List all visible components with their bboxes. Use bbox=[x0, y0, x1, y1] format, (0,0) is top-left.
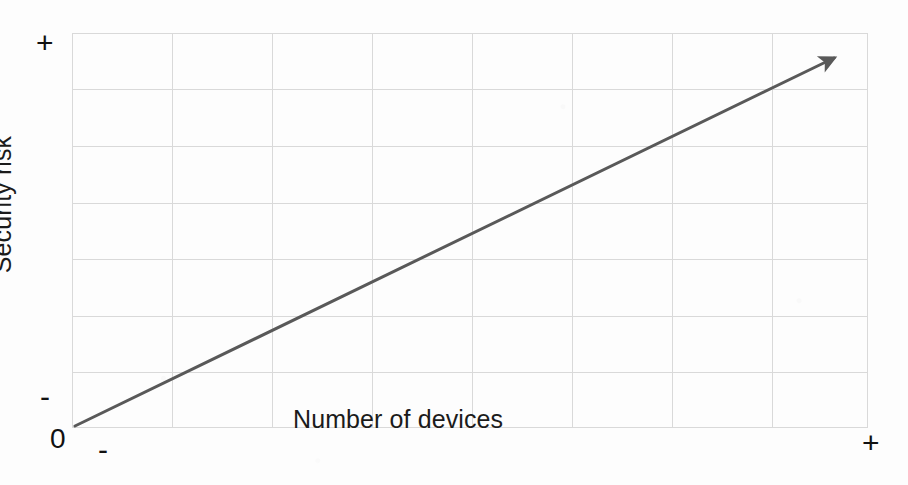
y-axis-label: Security risk bbox=[0, 40, 17, 370]
x-axis-label: Number of devices bbox=[293, 405, 503, 434]
trend-line-series bbox=[72, 33, 868, 428]
x-axis-tick-high: + bbox=[862, 428, 880, 458]
y-axis-tick-low: - bbox=[40, 382, 50, 412]
x-axis-tick-low: - bbox=[98, 435, 108, 465]
origin-label: 0 bbox=[50, 425, 66, 453]
chart-figure: Security risk Number of devices + - 0 - … bbox=[0, 0, 908, 485]
y-axis-tick-high: + bbox=[36, 28, 54, 58]
plot-area bbox=[72, 33, 868, 428]
trend-line bbox=[75, 58, 834, 426]
